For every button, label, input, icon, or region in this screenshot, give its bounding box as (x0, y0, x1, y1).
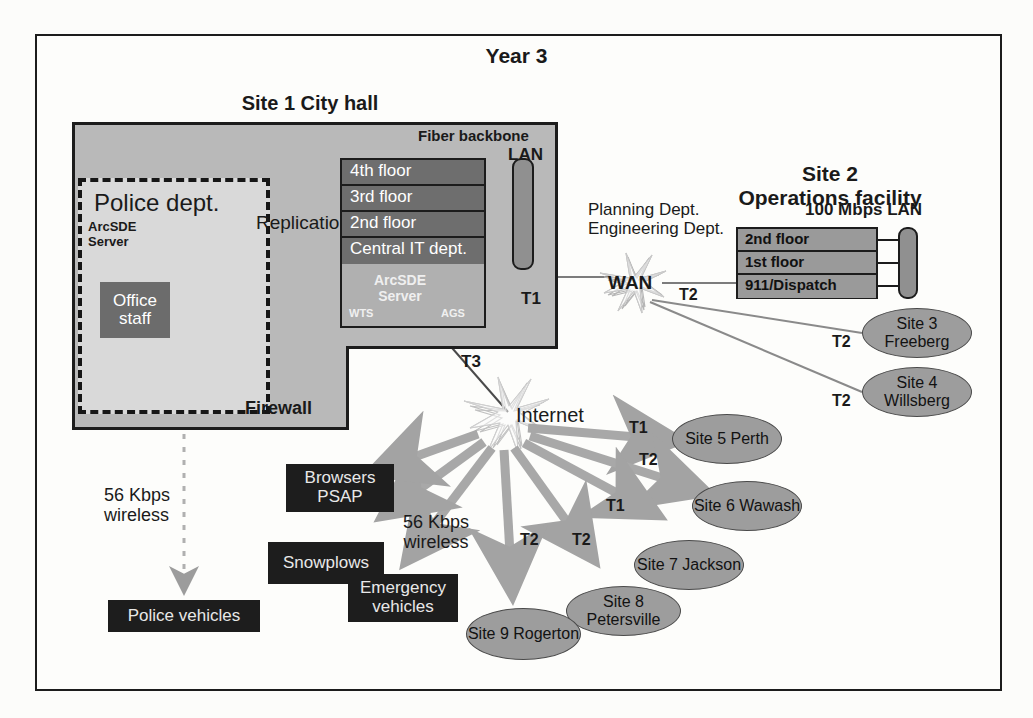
site-ellipse-site8[interactable]: Site 8 Petersville (566, 586, 681, 636)
site2-lan-links (878, 240, 898, 286)
link-label-site3: T2 (832, 333, 851, 351)
site1-floor-row[interactable]: 4th floor (342, 160, 484, 186)
central-arcsde-label: ArcSDE Server (371, 273, 429, 304)
wan-label: WAN (608, 272, 652, 293)
internet-label: Internet (516, 404, 584, 426)
t3-label: T3 (461, 352, 481, 371)
wireless-label-left: 56 Kbps wireless (104, 485, 170, 525)
link-label-site8: T2 (572, 531, 591, 549)
site2-floor-row-dispatch[interactable]: 911/Dispatch (738, 275, 876, 298)
site1-label: Site 1 City hall (160, 92, 460, 114)
link-label-site5: T1 (629, 419, 648, 437)
site-ellipse-site6[interactable]: Site 6 Wawash (692, 481, 802, 531)
ags-label: AGS (441, 307, 465, 319)
site2-floor-row[interactable]: 1st floor (738, 252, 876, 275)
emergency-vehicles-box[interactable]: Emergency vehicles (348, 574, 458, 622)
diagram-canvas: Year 3 Site 1 City hall Police dept. Arc… (0, 0, 1033, 718)
t2-label-site2: T2 (679, 286, 698, 304)
site2-floor-row[interactable]: 2nd floor (738, 229, 876, 252)
police-dept-label: Police dept. (94, 190, 219, 217)
site1-border-bottom (72, 427, 349, 430)
site1-border-step-v (346, 346, 349, 430)
site-ellipse-site7[interactable]: Site 7 Jackson (634, 540, 744, 590)
link-label-site4: T2 (832, 392, 851, 410)
firewall-label: Firewall (245, 398, 312, 418)
site1-floor-row-central-it[interactable]: Central IT dept. (342, 238, 484, 264)
site2-depts-label: Planning Dept. Engineering Dept. (588, 200, 724, 238)
site-ellipse-site4[interactable]: Site 4 Willsberg (862, 367, 972, 417)
site2-lan-label: 100 Mbps LAN (805, 200, 922, 219)
site1-floor-row[interactable]: 3rd floor (342, 186, 484, 212)
police-arcsde-label: ArcSDE Server (88, 220, 136, 249)
site1-border-right (555, 122, 558, 349)
link-label-site9: T2 (520, 531, 539, 549)
police-vehicles-box[interactable]: Police vehicles (108, 600, 260, 632)
site-ellipse-site3[interactable]: Site 3 Freeberg (862, 308, 972, 358)
fiber-backbone-label: Fiber backbone (418, 128, 529, 145)
replication-label: Replication (256, 212, 350, 233)
site1-border-top (72, 122, 558, 125)
t1-label-site1: T1 (521, 289, 541, 308)
site1-border-step-h (346, 346, 558, 349)
link-label-site7: T1 (606, 497, 625, 515)
site-ellipse-site9[interactable]: Site 9 Rogerton (466, 608, 581, 660)
office-staff-box: Office staff (100, 282, 170, 338)
site1-lan-bar (512, 158, 534, 270)
site2-floor-stack: 2nd floor 1st floor 911/Dispatch (736, 227, 878, 299)
wireless-label-right: 56 Kbps wireless (386, 512, 486, 552)
site1-border-left (72, 122, 75, 430)
site2-lan-bar (898, 227, 918, 299)
browsers-psap-box[interactable]: Browsers PSAP (286, 464, 394, 512)
link-label-site6: T2 (639, 451, 658, 469)
site-ellipse-site5[interactable]: Site 5 Perth (672, 414, 782, 464)
page-title: Year 3 (0, 44, 1033, 68)
wts-label: WTS (349, 307, 373, 319)
site1-floor-row[interactable]: 2nd floor (342, 212, 484, 238)
